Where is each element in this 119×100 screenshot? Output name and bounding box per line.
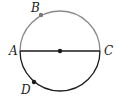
- lower-arc: [20, 51, 100, 91]
- label-d: D: [20, 83, 31, 97]
- label-a: A: [8, 44, 18, 58]
- center-point: [58, 49, 62, 53]
- label-c: C: [104, 44, 113, 58]
- point-d: [32, 80, 36, 84]
- upper-arc: [20, 11, 100, 51]
- label-b: B: [30, 1, 40, 15]
- circle-diagram: A B C D: [0, 0, 119, 100]
